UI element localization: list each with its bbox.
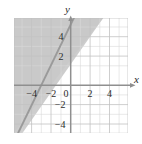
x-tick-label-pos4: 4 <box>107 88 112 99</box>
origin-label: 0 <box>64 88 69 99</box>
x-tick-label-neg4: −4 <box>26 88 37 99</box>
y-axis-label: y <box>64 3 70 15</box>
y-tick-label-neg2: −2 <box>55 99 66 110</box>
linear-inequality-graph: x y −4 −2 2 4 0 4 2 −2 −4 <box>0 0 142 144</box>
x-tick-label-neg2: −2 <box>46 88 57 99</box>
y-tick-label-neg4: −4 <box>55 119 66 130</box>
x-axis-label: x <box>133 73 139 85</box>
y-tick-label-pos4: 4 <box>59 31 64 42</box>
y-tick-label-pos2: 2 <box>59 51 64 62</box>
graph-canvas: x y −4 −2 2 4 0 4 2 −2 −4 <box>0 0 142 144</box>
x-tick-label-pos2: 2 <box>88 88 93 99</box>
